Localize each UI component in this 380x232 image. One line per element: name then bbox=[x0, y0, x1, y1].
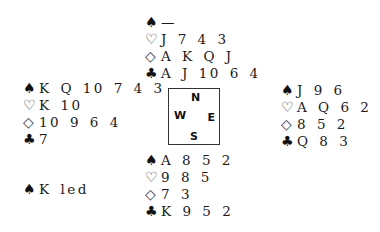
south-spades: ♠ A 8 5 2 bbox=[145, 152, 233, 169]
club-icon: ♣ bbox=[23, 131, 39, 148]
north-spades: ♠ — bbox=[145, 14, 261, 31]
north-diamonds: ◇ A K Q J bbox=[145, 48, 261, 65]
diamond-icon: ◇ bbox=[281, 116, 297, 133]
lead-text: K led bbox=[39, 181, 89, 198]
east-diamonds-cards: 8 5 2 bbox=[297, 116, 348, 133]
west-diamonds: ◇ 10 9 6 4 bbox=[23, 114, 165, 131]
opening-lead: ♠ K led bbox=[23, 181, 89, 198]
north-diamonds-cards: A K Q J bbox=[161, 48, 234, 65]
heart-icon: ♡ bbox=[145, 31, 161, 48]
club-icon: ♣ bbox=[281, 133, 297, 150]
east-diamonds: ◇ 8 5 2 bbox=[281, 116, 371, 133]
south-diamonds: ◇ 7 3 bbox=[145, 186, 233, 203]
east-clubs-cards: Q 8 3 bbox=[297, 133, 350, 150]
compass-south-label: S bbox=[190, 130, 198, 143]
west-diamonds-cards: 10 9 6 4 bbox=[39, 114, 121, 131]
south-clubs: ♣ K 9 5 2 bbox=[145, 203, 233, 220]
compass-box: N W E S bbox=[168, 88, 220, 145]
south-hearts-cards: 9 8 5 bbox=[161, 169, 212, 186]
heart-icon: ♡ bbox=[145, 169, 161, 186]
south-hand: ♠ A 8 5 2 ♡ 9 8 5 ◇ 7 3 ♣ K 9 5 2 bbox=[145, 152, 233, 220]
compass-north-label: N bbox=[191, 91, 200, 104]
compass-east-label: E bbox=[207, 111, 215, 124]
south-hearts: ♡ 9 8 5 bbox=[145, 169, 233, 186]
north-hand: ♠ — ♡ J 7 4 3 ◇ A K Q J ♣ A J 10 6 4 bbox=[145, 14, 261, 82]
east-spades-cards: J 9 6 bbox=[297, 82, 345, 99]
heart-icon: ♡ bbox=[23, 97, 39, 114]
west-clubs: ♣ 7 bbox=[23, 131, 165, 148]
west-spades: ♠ K Q 10 7 4 3 bbox=[23, 80, 165, 97]
north-clubs-cards: A J 10 6 4 bbox=[161, 65, 261, 82]
west-hand: ♠ K Q 10 7 4 3 ♡ K 10 ◇ 10 9 6 4 ♣ 7 bbox=[23, 80, 165, 148]
north-hearts-cards: J 7 4 3 bbox=[161, 31, 229, 48]
east-hearts: ♡ A Q 6 2 bbox=[281, 99, 371, 116]
east-hearts-cards: A Q 6 2 bbox=[297, 99, 371, 116]
club-icon: ♣ bbox=[145, 203, 161, 220]
spade-icon: ♠ bbox=[145, 152, 161, 169]
spade-icon: ♠ bbox=[23, 181, 39, 198]
south-spades-cards: A 8 5 2 bbox=[161, 152, 233, 169]
spade-icon: ♠ bbox=[281, 82, 297, 99]
heart-icon: ♡ bbox=[281, 99, 297, 116]
north-spades-cards: — bbox=[161, 14, 177, 31]
diamond-icon: ◇ bbox=[23, 114, 39, 131]
east-hand: ♠ J 9 6 ♡ A Q 6 2 ◇ 8 5 2 ♣ Q 8 3 bbox=[281, 82, 371, 150]
spade-icon: ♠ bbox=[23, 80, 39, 97]
east-clubs: ♣ Q 8 3 bbox=[281, 133, 371, 150]
diamond-icon: ◇ bbox=[145, 186, 161, 203]
spade-icon: ♠ bbox=[145, 14, 161, 31]
west-spades-cards: K Q 10 7 4 3 bbox=[39, 80, 165, 97]
diamond-icon: ◇ bbox=[145, 48, 161, 65]
north-hearts: ♡ J 7 4 3 bbox=[145, 31, 261, 48]
south-diamonds-cards: 7 3 bbox=[161, 186, 192, 203]
west-hearts: ♡ K 10 bbox=[23, 97, 165, 114]
south-clubs-cards: K 9 5 2 bbox=[161, 203, 233, 220]
west-hearts-cards: K 10 bbox=[39, 97, 83, 114]
east-spades: ♠ J 9 6 bbox=[281, 82, 371, 99]
west-clubs-cards: 7 bbox=[39, 131, 50, 148]
compass-west-label: W bbox=[174, 109, 186, 122]
